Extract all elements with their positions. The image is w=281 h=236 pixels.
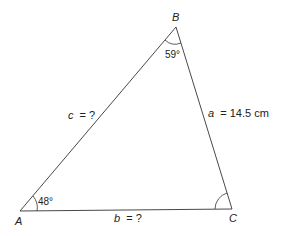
- side-b-value: = ?: [126, 212, 142, 224]
- triangle-diagram: B A C 59° 48° c = ? a = 14.5 cm b = ?: [0, 0, 281, 236]
- angle-arc-b: [165, 40, 181, 44]
- side-b-label: b = ?: [114, 212, 142, 224]
- triangle-abc: [20, 27, 232, 211]
- angle-b-value: 59°: [165, 49, 180, 60]
- side-c-label: c = ?: [68, 109, 95, 121]
- vertex-a-label: A: [14, 215, 22, 227]
- angle-arc-c: [215, 193, 227, 209]
- side-a-label: a = 14.5 cm: [208, 107, 269, 119]
- vertex-c-label: C: [229, 212, 237, 224]
- angle-arc-a: [33, 196, 37, 211]
- vertex-b-label: B: [172, 11, 179, 23]
- side-c-name: c: [68, 109, 74, 121]
- side-b-name: b: [114, 212, 120, 224]
- side-c-value: = ?: [80, 109, 96, 121]
- angle-a-value: 48°: [38, 196, 53, 207]
- side-a-value: = 14.5 cm: [220, 107, 269, 119]
- side-a-name: a: [208, 107, 214, 119]
